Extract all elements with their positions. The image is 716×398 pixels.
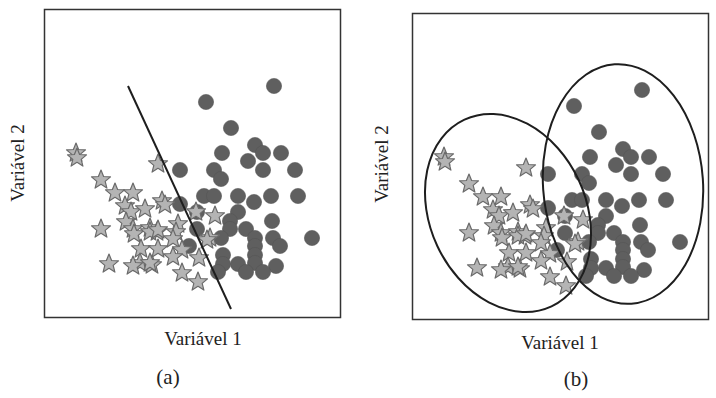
circle-point bbox=[198, 94, 213, 109]
circle-point bbox=[255, 264, 270, 279]
circle-point bbox=[290, 188, 305, 203]
circle-point bbox=[608, 157, 623, 172]
circle-point bbox=[623, 149, 638, 164]
circle-point bbox=[655, 166, 670, 181]
circle-point bbox=[255, 162, 270, 177]
circle-point bbox=[632, 217, 647, 232]
circle-point bbox=[641, 149, 656, 164]
circle-point bbox=[230, 188, 245, 203]
figure: Variável 1 Variável 2 (a) Variável 1 Var… bbox=[0, 0, 716, 398]
circle-point bbox=[214, 145, 229, 160]
circle-point bbox=[614, 198, 629, 213]
circle-point bbox=[223, 120, 238, 135]
panel-b: Variável 1 Variável 2 (b) bbox=[371, 14, 711, 392]
circle-point bbox=[304, 230, 319, 245]
circle-point bbox=[591, 124, 606, 139]
panel-label: (a) bbox=[156, 365, 179, 389]
circle-point bbox=[238, 264, 253, 279]
circle-point bbox=[631, 192, 646, 207]
circle-point bbox=[581, 175, 596, 190]
circle-point bbox=[263, 188, 278, 203]
circle-point bbox=[246, 194, 261, 209]
x-axis-label: Variável 1 bbox=[521, 332, 599, 353]
circle-point bbox=[273, 145, 288, 160]
circle-point bbox=[634, 82, 649, 97]
circle-point bbox=[566, 98, 581, 113]
circle-point bbox=[240, 153, 255, 168]
x-axis-label: Variável 1 bbox=[164, 328, 242, 349]
circle-point bbox=[582, 149, 597, 164]
circle-point bbox=[255, 145, 270, 160]
circle-point bbox=[623, 268, 638, 283]
panel-label: (b) bbox=[564, 367, 589, 391]
circle-point bbox=[606, 268, 621, 283]
circle-point bbox=[640, 242, 655, 257]
panel-a: Variável 1 Variável 2 (a) bbox=[7, 10, 341, 390]
circle-point bbox=[540, 200, 555, 215]
circle-point bbox=[287, 162, 302, 177]
y-axis-label: Variável 2 bbox=[371, 125, 392, 203]
circle-point bbox=[213, 171, 228, 186]
y-axis-label: Variável 2 bbox=[7, 124, 28, 202]
circle-point bbox=[264, 213, 279, 228]
circle-point bbox=[206, 188, 221, 203]
circle-point bbox=[172, 162, 187, 177]
circle-point bbox=[210, 264, 225, 279]
circle-point bbox=[598, 192, 613, 207]
circle-point bbox=[672, 234, 687, 249]
circle-point bbox=[623, 166, 638, 181]
circle-point bbox=[272, 238, 287, 253]
circle-point bbox=[266, 78, 281, 93]
circle-point bbox=[658, 192, 673, 207]
